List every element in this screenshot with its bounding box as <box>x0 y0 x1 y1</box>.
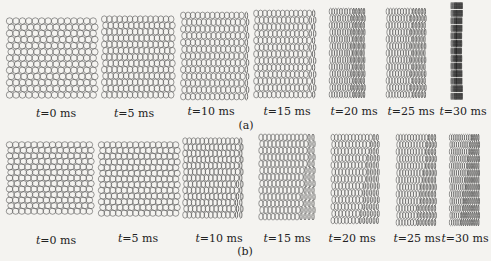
lattice-cell <box>111 170 117 176</box>
lattice-cell <box>185 93 190 100</box>
lattice-cell <box>312 78 314 85</box>
lattice-cell <box>144 35 150 42</box>
lattice-cell <box>134 204 140 210</box>
lattice-cell <box>148 28 154 35</box>
lattice-cell <box>234 26 239 33</box>
lattice-cell <box>91 85 98 92</box>
lattice-cell <box>8 180 15 186</box>
lattice-cell <box>312 37 314 44</box>
lattice-cell <box>150 187 156 193</box>
lattice-cell <box>230 32 235 39</box>
lattice-cell <box>163 170 169 176</box>
lattice-cell <box>472 170 473 177</box>
lattice-cell <box>26 192 33 198</box>
lattice-panel <box>100 142 180 216</box>
lattice-cell <box>469 191 470 198</box>
lattice-cell <box>224 80 229 87</box>
lattice-cell <box>69 147 76 153</box>
lattice-cell <box>376 217 378 224</box>
lattice-cell <box>465 198 466 205</box>
lattice-cell <box>148 41 154 48</box>
lattice-cell <box>200 80 205 87</box>
lattice-cell <box>8 169 15 175</box>
lattice-cell <box>140 147 146 153</box>
lattice-cell <box>12 153 19 159</box>
lattice-cell <box>26 18 33 25</box>
lattice-cell <box>140 170 146 176</box>
lattice-cell <box>370 141 372 148</box>
lattice-cell <box>143 41 149 48</box>
lattice-cell <box>117 170 123 176</box>
lattice-cell <box>161 153 167 159</box>
lattice-cell <box>110 199 116 205</box>
lattice-cell <box>43 186 50 192</box>
lattice-cell <box>229 66 234 73</box>
lattice-cell <box>19 55 26 62</box>
lattice-cell <box>153 16 159 23</box>
lattice-cell <box>117 193 123 199</box>
lattice-cell <box>361 29 362 36</box>
lattice-cell <box>309 30 311 37</box>
lattice-cell <box>6 153 13 159</box>
lattice-panel <box>8 18 98 98</box>
lattice-cell <box>434 205 436 212</box>
lattice-cell <box>19 153 26 159</box>
lattice-cell <box>363 22 364 29</box>
lattice-cell <box>240 150 242 157</box>
lattice-cell <box>145 170 151 176</box>
lattice-cell <box>168 79 174 86</box>
lattice-cell <box>168 54 174 61</box>
lattice-cell <box>25 164 32 170</box>
lattice-cell <box>219 80 224 87</box>
lattice-cell <box>421 50 423 57</box>
lattice-cell <box>426 163 428 170</box>
lattice-cell <box>246 73 249 80</box>
lattice-cell <box>312 200 314 207</box>
lattice-cell <box>134 47 140 54</box>
lattice-cell <box>75 158 82 164</box>
lattice-cell <box>101 66 107 73</box>
lattice-cell <box>134 159 140 165</box>
lattice-cell <box>239 53 244 60</box>
lattice-cell <box>422 29 424 36</box>
lattice-cell <box>20 147 27 153</box>
lattice-cell <box>410 57 412 64</box>
lattice-cell <box>75 203 82 209</box>
lattice-cell <box>134 85 140 92</box>
lattice-cell <box>421 22 423 29</box>
lattice-cell <box>66 61 73 68</box>
lattice-cell <box>19 197 26 203</box>
lattice-cell <box>423 191 425 198</box>
lattice-cell <box>157 193 163 199</box>
lattice-cell <box>181 53 186 60</box>
lattice-cell <box>134 73 140 80</box>
lattice-cell <box>134 147 140 153</box>
lattice-cell <box>8 147 15 153</box>
lattice-cell <box>91 49 98 56</box>
lattice-cell <box>32 18 39 25</box>
lattice-cell <box>234 66 239 73</box>
lattice-cell <box>312 51 314 58</box>
lattice-cell <box>62 153 69 159</box>
lattice-cell <box>27 24 34 31</box>
lattice-cell <box>121 153 127 159</box>
lattice-cell <box>359 84 360 91</box>
lattice-cell <box>170 47 176 54</box>
lattice-cell <box>144 210 150 216</box>
lattice-cell <box>353 36 354 43</box>
lattice-cell <box>364 70 365 77</box>
lattice-cell <box>434 219 436 226</box>
lattice-cell <box>53 49 60 56</box>
lattice-cell <box>358 43 359 50</box>
lattice-cell <box>428 134 430 141</box>
lattice-cell <box>182 46 187 53</box>
lattice-cell <box>478 212 479 219</box>
lattice-cell <box>234 53 239 60</box>
lattice-cell <box>63 147 70 153</box>
lattice-cell <box>86 197 93 203</box>
lattice-cell <box>51 192 58 198</box>
lattice-cell <box>112 28 118 35</box>
lattice-cell <box>159 73 165 80</box>
lattice-cell <box>88 169 95 175</box>
lattice-cell <box>100 147 106 153</box>
